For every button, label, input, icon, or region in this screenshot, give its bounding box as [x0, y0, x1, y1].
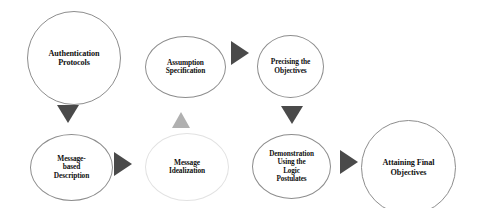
- node-precising-the-objectives[interactable]: Precising the Objectives: [257, 35, 324, 98]
- flowchart-diagram: Authentication Protocols Assumption Spec…: [0, 0, 477, 208]
- node-label: Demonstration Using the Logic Postulates: [265, 150, 318, 182]
- node-label: Attaining Final Objectives: [379, 158, 439, 176]
- node-label: Message- based Description: [50, 155, 93, 180]
- arrow-up-icon-message-idealization-to-assumption: [172, 112, 190, 128]
- node-label: Authentication Protocols: [45, 49, 104, 67]
- node-demonstration-using-the-logic-postulates[interactable]: Demonstration Using the Logic Postulates: [252, 134, 331, 199]
- node-message-idealization[interactable]: Message Idealization: [145, 133, 229, 201]
- arrow-down-icon-authentication-to-message-based: [57, 105, 79, 123]
- node-attaining-final-objectives[interactable]: Attaining Final Objectives: [361, 120, 456, 208]
- arrow-right-icon-message-based-to-message-idealization: [114, 152, 132, 176]
- node-label: Precising the Objectives: [267, 58, 314, 75]
- node-label: Message Idealization: [165, 159, 209, 176]
- node-label: Assumption Specification: [162, 59, 209, 76]
- arrow-right-icon-assumption-to-precising: [231, 41, 249, 65]
- node-message-based-description[interactable]: Message- based Description: [30, 134, 113, 201]
- node-assumption-specification[interactable]: Assumption Specification: [145, 36, 226, 98]
- arrow-down-icon-precising-to-demonstration: [281, 106, 303, 124]
- node-authentication-protocols[interactable]: Authentication Protocols: [27, 11, 121, 105]
- arrow-right-icon-demonstration-to-attaining: [340, 150, 358, 174]
